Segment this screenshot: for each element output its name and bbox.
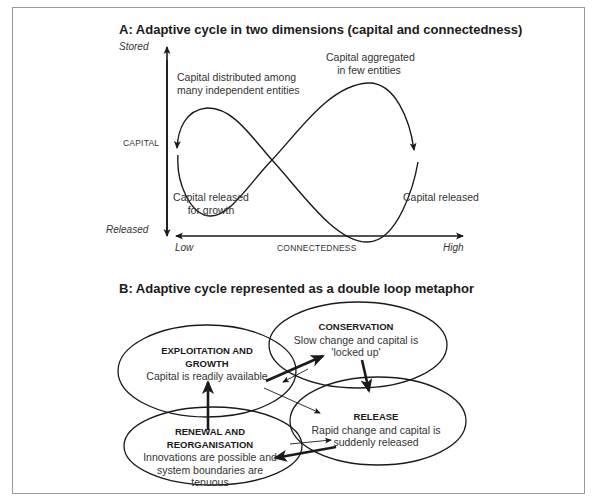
annotation-capital-distributed: Capital distributed among many independe… [177, 71, 300, 96]
panel-b-title: B: Adaptive cycle represented as a doubl… [119, 282, 474, 295]
phase-renewal: RENEWAL AND REORGANISATION Innovations a… [140, 426, 280, 489]
y-axis-bottom-label: Released [106, 225, 148, 235]
y-axis-top-label: Stored [119, 42, 148, 52]
x-axis-left-label: Low [175, 243, 193, 253]
arrow-conservation-to-release [362, 360, 369, 391]
y-axis-label: CAPITAL [123, 139, 159, 148]
annotation-capital-released: Capital released [403, 191, 479, 204]
panel-a-title: A: Adaptive cycle in two dimensions (cap… [119, 23, 522, 36]
phase-release: RELEASE Rapid change and capital is sudd… [306, 411, 446, 449]
phase-conservation: CONSERVATION Slow change and capital is … [286, 321, 426, 359]
adaptive-cycle-curve [177, 83, 418, 242]
annotation-capital-aggregated: Capital aggregated in few entities [326, 51, 412, 76]
x-axis-label: CONNECTEDNESS [277, 244, 357, 253]
annotation-capital-released-growth: Capital released for growth [172, 191, 250, 216]
phase-exploitation: EXPLOITATION AND GROWTH Capital is readi… [137, 345, 277, 383]
x-axis-right-label: High [443, 243, 464, 253]
